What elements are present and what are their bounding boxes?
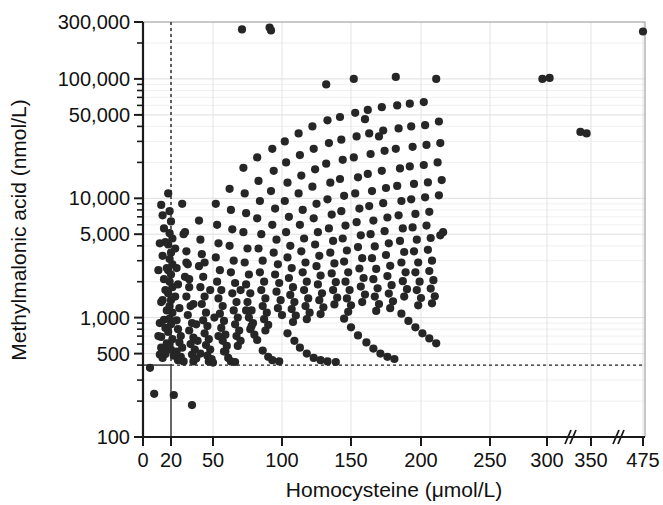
data-point — [272, 288, 280, 296]
data-point — [182, 258, 190, 266]
data-point — [246, 289, 254, 297]
data-point — [322, 160, 330, 168]
data-point — [378, 167, 386, 175]
data-point — [364, 170, 372, 178]
y-tick-label: 100 — [97, 426, 130, 448]
data-point — [299, 206, 307, 214]
data-point — [330, 300, 338, 308]
data-point — [268, 221, 276, 229]
data-point — [546, 74, 554, 82]
data-point — [399, 224, 407, 232]
data-point — [239, 228, 247, 236]
data-point — [182, 247, 190, 255]
data-point — [402, 268, 410, 276]
data-point — [226, 242, 234, 250]
data-point — [344, 308, 352, 316]
data-point — [323, 195, 331, 203]
data-point — [425, 267, 433, 275]
data-point — [435, 191, 443, 199]
data-point — [170, 391, 178, 399]
data-point — [228, 225, 236, 233]
data-point — [403, 285, 411, 293]
data-point — [407, 122, 415, 130]
data-point — [314, 228, 322, 236]
y-tick-label: 50,000 — [69, 104, 130, 126]
data-point — [339, 234, 347, 242]
data-point — [308, 122, 316, 130]
data-point — [216, 266, 224, 274]
data-point — [157, 201, 165, 209]
data-point — [329, 286, 337, 294]
data-point — [206, 286, 214, 294]
data-point — [312, 262, 320, 270]
data-point — [355, 205, 363, 213]
data-point — [146, 364, 154, 372]
data-point — [413, 236, 421, 244]
data-point — [365, 202, 373, 210]
data-point — [281, 197, 289, 205]
data-point — [278, 311, 286, 319]
data-point — [180, 230, 188, 238]
data-point — [346, 286, 354, 294]
data-point — [385, 290, 393, 298]
data-point — [268, 356, 276, 364]
data-point — [178, 200, 186, 208]
data-point — [295, 189, 303, 197]
data-point — [304, 294, 312, 302]
data-point — [288, 264, 296, 272]
data-point — [381, 147, 389, 155]
data-point — [328, 269, 336, 277]
data-point — [424, 178, 432, 186]
data-point — [159, 211, 167, 219]
data-point — [232, 298, 240, 306]
data-point — [397, 258, 405, 266]
data-point — [411, 268, 419, 276]
data-point — [422, 222, 430, 230]
data-point — [201, 293, 209, 301]
data-point — [376, 350, 384, 358]
data-point — [358, 298, 366, 306]
data-point — [198, 300, 206, 308]
data-point — [427, 285, 435, 293]
data-point — [341, 222, 349, 230]
data-point — [295, 129, 303, 137]
data-point — [157, 344, 165, 352]
data-point — [362, 338, 370, 346]
data-point — [182, 293, 190, 301]
y-tick-label: 500 — [97, 343, 130, 365]
data-point — [271, 205, 279, 213]
x-axis-tick-labels: 02050100150200250300350475 — [137, 449, 659, 471]
data-point — [325, 224, 333, 232]
data-point — [639, 27, 647, 35]
data-point — [171, 293, 179, 301]
data-point — [386, 262, 394, 270]
data-point — [303, 350, 311, 358]
data-point — [368, 187, 376, 195]
data-point — [209, 359, 217, 367]
data-point — [214, 332, 222, 340]
data-point — [351, 189, 359, 197]
data-point — [261, 294, 269, 302]
data-point — [332, 358, 340, 366]
data-point — [192, 320, 200, 328]
data-point — [243, 298, 251, 306]
data-point — [185, 275, 193, 283]
data-point — [174, 280, 182, 288]
data-point — [410, 180, 418, 188]
y-tick-label: 5,000 — [80, 223, 130, 245]
data-point — [167, 217, 175, 225]
data-point — [432, 75, 440, 83]
data-point — [253, 153, 261, 161]
data-point — [353, 218, 361, 226]
data-point — [381, 227, 389, 235]
data-point — [393, 101, 401, 109]
data-point — [212, 200, 220, 208]
data-point — [383, 272, 391, 280]
data-point — [424, 246, 432, 254]
data-point — [261, 326, 269, 334]
plot-canvas: 1005001,0005,00010,00050,000100,000300,0… — [0, 0, 663, 505]
data-point — [400, 248, 408, 256]
data-point — [270, 167, 278, 175]
data-point — [268, 145, 276, 153]
data-point — [361, 291, 369, 299]
